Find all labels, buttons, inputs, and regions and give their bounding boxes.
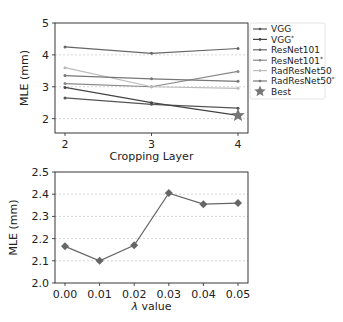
data-point	[64, 96, 67, 99]
y-tick-label: 2.3	[32, 210, 50, 223]
diamond-marker	[96, 257, 104, 265]
y-axis-label: MLE (mm)	[18, 50, 31, 106]
data-point	[64, 45, 67, 48]
y-tick-label: 2	[42, 113, 49, 126]
series-line	[65, 193, 238, 261]
y-tick-label: 2.4	[32, 188, 50, 201]
y-tick-label: 2.1	[32, 255, 50, 268]
top-chart-cropping-layer: 2345234Cropping LayerMLE (mm)VGGVGG*ResN…	[18, 17, 335, 163]
data-point	[150, 52, 153, 55]
data-point	[64, 66, 67, 69]
plot-frame	[55, 172, 248, 283]
legend-entry: Best	[271, 87, 291, 97]
data-point	[64, 86, 67, 89]
y-tick-label: 2.2	[32, 233, 50, 246]
data-point	[237, 47, 240, 50]
data-point	[237, 87, 240, 90]
x-axis-label: Cropping Layer	[110, 150, 194, 163]
legend-entry: ResNet101*	[271, 55, 323, 66]
data-point	[150, 85, 153, 88]
diamond-marker	[234, 199, 242, 207]
data-point	[64, 74, 67, 77]
best-star-icon	[231, 109, 244, 122]
diamond-marker	[130, 241, 138, 249]
y-tick-label: 2.0	[32, 277, 50, 290]
x-tick-label: 0.00	[53, 288, 78, 301]
legend-entry: VGG*	[271, 34, 294, 45]
legend-entry: RadResNet50	[271, 66, 332, 76]
y-tick-label: 2.5	[32, 166, 50, 179]
x-axis-label: λ value	[130, 300, 171, 313]
x-tick-label: 4	[235, 138, 242, 151]
y-tick-label: 4	[42, 49, 49, 62]
data-point	[237, 80, 240, 83]
y-axis-label: MLE (mm)	[7, 199, 20, 255]
diamond-marker	[199, 200, 207, 208]
diamond-marker	[61, 242, 69, 250]
y-tick-label: 5	[42, 17, 49, 30]
data-point	[64, 82, 67, 85]
bottom-chart-lambda: 2.02.12.22.32.42.50.000.010.020.030.040.…	[7, 166, 250, 313]
data-point	[150, 77, 153, 80]
legend-entry: ResNet101	[271, 45, 320, 55]
x-tick-label: 2	[62, 138, 69, 151]
figure: 2345234Cropping LayerMLE (mm)VGGVGG*ResN…	[0, 0, 343, 322]
legend-entry: RadResNet50*	[271, 75, 335, 86]
data-point	[150, 101, 153, 104]
x-tick-label: 0.04	[191, 288, 216, 301]
x-tick-label: 0.01	[87, 288, 112, 301]
legend-entry: VGG	[271, 24, 291, 34]
legend: VGGVGG*ResNet101ResNet101*RadResNet50Rad…	[250, 23, 335, 99]
x-tick-label: 0.05	[226, 288, 251, 301]
data-point	[237, 70, 240, 73]
y-tick-label: 3	[42, 81, 49, 94]
diamond-marker	[165, 189, 173, 197]
